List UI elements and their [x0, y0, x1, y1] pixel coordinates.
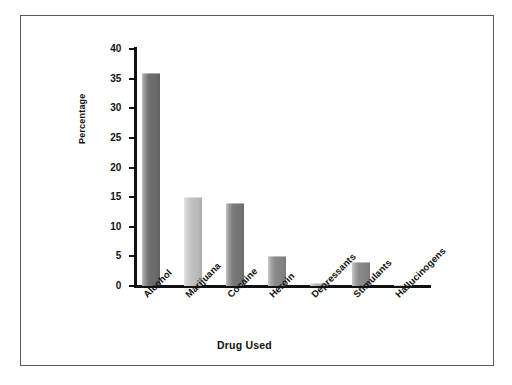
y-tick-label-10: 10 — [91, 222, 121, 232]
y-tick-label-0: 0 — [91, 281, 121, 291]
bar-marijuana — [184, 197, 202, 286]
bar-cocaine — [226, 203, 244, 286]
plot-area — [137, 49, 431, 286]
bar-slot — [390, 49, 432, 286]
y-tick-0 — [129, 285, 135, 287]
y-tick-label-35: 35 — [91, 74, 121, 84]
bar-slot — [264, 49, 306, 286]
y-tick-label-25: 25 — [91, 133, 121, 143]
bar-slot — [306, 49, 348, 286]
y-tick-20 — [129, 167, 135, 169]
y-tick-25 — [129, 137, 135, 139]
y-tick-15 — [129, 196, 135, 198]
bar-slot — [348, 49, 390, 286]
y-tick-label-30: 30 — [91, 103, 121, 113]
bar-slot — [138, 49, 180, 286]
figure-frame: 0510152025303540 Percentage AlcoholMarij… — [20, 15, 494, 366]
bar-slot — [222, 49, 264, 286]
y-tick-label-5: 5 — [91, 251, 121, 261]
y-tick-label-15: 15 — [91, 192, 121, 202]
y-tick-35 — [129, 78, 135, 80]
bar-chart: 0510152025303540 Percentage AlcoholMarij… — [21, 16, 495, 367]
y-tick-label-40: 40 — [91, 44, 121, 54]
y-tick-label-20: 20 — [91, 163, 121, 173]
x-axis-title: Drug Used — [217, 339, 272, 351]
bar-alcohol — [142, 73, 160, 286]
y-tick-10 — [129, 226, 135, 228]
y-tick-30 — [129, 107, 135, 109]
y-tick-5 — [129, 255, 135, 257]
y-tick-40 — [129, 48, 135, 50]
bar-slot — [180, 49, 222, 286]
y-axis-title: Percentage — [77, 93, 87, 144]
